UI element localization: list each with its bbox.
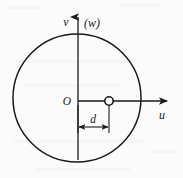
figure-container: v (w) u O d — [0, 0, 183, 178]
u-axis-label: u — [159, 108, 165, 122]
distance-label: d — [90, 113, 96, 125]
origin-label: O — [63, 95, 72, 107]
w-axis-label: (w) — [84, 16, 100, 30]
v-axis-label: v — [63, 15, 69, 29]
circle-diagram: v (w) u O d — [0, 0, 183, 178]
main-circle — [13, 34, 141, 162]
point-marker-icon — [105, 97, 113, 105]
